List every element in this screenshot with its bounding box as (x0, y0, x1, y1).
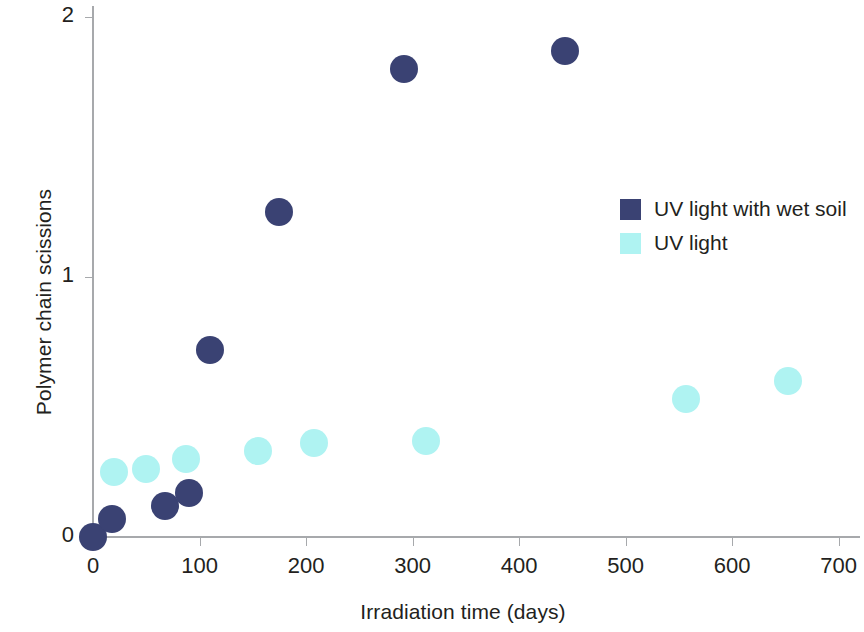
data-point (244, 437, 272, 465)
y-tick-label: 1 (20, 262, 74, 288)
x-tick-label: 500 (581, 553, 671, 579)
legend-item-label: UV light with wet soil (654, 197, 847, 221)
y-tick (85, 17, 93, 18)
data-point (196, 336, 224, 364)
x-axis-title: Irradiation time (days) (93, 600, 833, 624)
x-tick (519, 538, 520, 546)
data-point (412, 427, 440, 455)
data-point (172, 445, 200, 473)
data-point (774, 367, 802, 395)
x-tick-label: 200 (261, 553, 351, 579)
x-tick (413, 538, 414, 546)
x-tick (626, 538, 627, 546)
legend-swatch-icon (620, 199, 641, 220)
x-tick (306, 538, 307, 546)
data-point (98, 505, 126, 533)
x-tick-label: 0 (48, 553, 138, 579)
legend-item-uv-light[interactable]: UV light (620, 226, 847, 260)
data-point (265, 198, 293, 226)
y-tick (85, 277, 93, 278)
data-point (132, 455, 160, 483)
legend-item-uv-light-with-wet-soil[interactable]: UV light with wet soil (620, 192, 847, 226)
x-tick (839, 538, 840, 546)
data-point (300, 429, 328, 457)
x-tick-label: 300 (368, 553, 458, 579)
data-point (390, 55, 418, 83)
y-axis-line (92, 6, 94, 539)
x-tick-label: 100 (155, 553, 245, 579)
data-point (175, 479, 203, 507)
x-tick (200, 538, 201, 546)
legend: UV light with wet soil UV light (620, 192, 847, 260)
scatter-chart: Polymer chain scissions Irradiation time… (0, 0, 864, 632)
y-axis-title: Polymer chain scissions (32, 152, 56, 452)
data-point (551, 37, 579, 65)
legend-item-label: UV light (654, 231, 728, 255)
data-point (672, 385, 700, 413)
x-tick-label: 400 (474, 553, 564, 579)
x-tick-label: 700 (794, 553, 864, 579)
x-tick (732, 538, 733, 546)
legend-swatch-icon (620, 233, 641, 254)
x-tick-label: 600 (687, 553, 777, 579)
data-point (100, 458, 128, 486)
x-axis-line (92, 536, 860, 538)
y-tick-label: 0 (20, 522, 74, 548)
y-tick-label: 2 (20, 2, 74, 28)
